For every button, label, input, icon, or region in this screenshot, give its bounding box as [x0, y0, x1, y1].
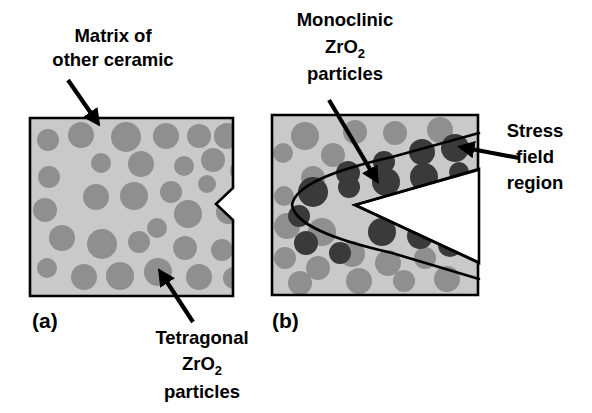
monoclinic-formula-subscript: 2: [358, 46, 365, 61]
monoclinic-label: Monoclinic ZrO2 particles: [297, 9, 394, 84]
stress-field-label-line2: field: [516, 146, 554, 167]
particle-tetragonal: [346, 268, 372, 294]
matrix-label-line1: Matrix of: [74, 25, 152, 46]
panel-a: [30, 118, 256, 296]
particle-tetragonal: [33, 198, 57, 222]
particle-tetragonal: [274, 186, 294, 206]
particle-tetragonal: [87, 229, 117, 259]
particle-tetragonal: [291, 122, 319, 150]
particle-tetragonal: [128, 151, 154, 177]
monoclinic-label-line1: Monoclinic: [297, 9, 394, 30]
particle-tetragonal: [120, 182, 148, 210]
stress-field-label-line1: Stress: [507, 120, 564, 141]
tetragonal-label-line2: ZrO2: [182, 353, 222, 378]
particle-tetragonal: [174, 156, 194, 176]
particle-tetragonal: [173, 236, 197, 260]
particle-tetragonal: [273, 143, 293, 163]
zirconia-toughening-diagram: Matrix of other ceramic Tetragonal ZrO2 …: [0, 0, 592, 413]
particle-tetragonal: [147, 218, 167, 238]
particle-monoclinic: [338, 176, 360, 198]
matrix-arrow: [68, 80, 95, 119]
particle-tetragonal: [160, 181, 182, 203]
particle-tetragonal: [38, 166, 60, 188]
particle-tetragonal: [216, 200, 240, 224]
particle-tetragonal: [288, 271, 312, 295]
panel-b-label: (b): [272, 309, 299, 332]
figure-root: Matrix of other ceramic Tetragonal ZrO2 …: [0, 0, 592, 413]
matrix-label-line2: other ceramic: [52, 49, 173, 70]
particle-tetragonal: [393, 270, 415, 292]
particle-tetragonal: [186, 264, 212, 290]
stress-field-label-line3: region: [507, 172, 564, 193]
tetragonal-label: Tetragonal ZrO2 particles: [155, 327, 248, 402]
panel-b: [272, 115, 489, 295]
particle-tetragonal: [153, 123, 179, 149]
tetragonal-formula: ZrO: [182, 353, 215, 374]
tetragonal-label-line3: particles: [164, 381, 240, 402]
particle-tetragonal: [214, 123, 240, 149]
particle-tetragonal: [211, 239, 233, 261]
tetragonal-label-line1: Tetragonal: [155, 327, 248, 348]
particle-tetragonal: [128, 231, 150, 253]
particle-tetragonal: [201, 148, 225, 172]
particle-tetragonal: [37, 258, 57, 278]
monoclinic-formula: ZrO: [325, 36, 358, 57]
particle-monoclinic: [294, 231, 318, 255]
particle-tetragonal: [274, 247, 296, 269]
particle-tetragonal: [383, 121, 407, 145]
particle-tetragonal: [187, 124, 211, 148]
particle-tetragonal: [106, 262, 134, 290]
particle-tetragonal: [198, 175, 216, 193]
particle-tetragonal: [174, 200, 202, 228]
particle-tetragonal: [68, 122, 94, 148]
particle-tetragonal: [111, 122, 141, 152]
particle-tetragonal: [71, 264, 97, 290]
panel-a-label: (a): [32, 309, 58, 332]
particle-monoclinic: [372, 168, 400, 196]
monoclinic-label-line3: particles: [307, 63, 383, 84]
particle-tetragonal: [91, 153, 111, 173]
monoclinic-label-line2: ZrO2: [325, 36, 365, 61]
particle-tetragonal: [49, 225, 75, 251]
particle-tetragonal: [37, 129, 59, 151]
particle-tetragonal: [83, 184, 109, 210]
particle-monoclinic: [329, 242, 351, 264]
stress-field-label: Stress field region: [507, 120, 564, 193]
tetragonal-formula-subscript: 2: [215, 363, 222, 378]
matrix-label: Matrix of other ceramic: [52, 25, 173, 70]
